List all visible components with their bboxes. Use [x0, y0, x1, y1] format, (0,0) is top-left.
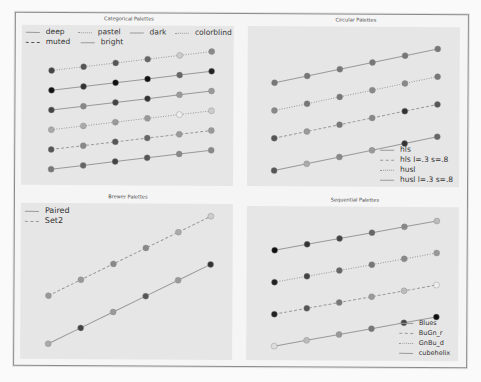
panel-brewer: Brewer Palettes Paired Set2 — [14, 191, 241, 364]
plot-area: Paired Set2 — [20, 203, 233, 360]
data-point — [80, 162, 86, 168]
data-point — [45, 341, 51, 347]
data-point — [45, 293, 51, 299]
data-point — [369, 294, 375, 300]
data-point — [402, 53, 408, 59]
data-point — [112, 119, 118, 125]
legend-label: husl — [400, 165, 416, 175]
legend-label: GnBu_d — [419, 338, 444, 348]
data-point — [80, 143, 86, 149]
data-point — [369, 147, 375, 153]
data-point — [208, 213, 214, 219]
series-line — [275, 220, 437, 251]
series-line — [51, 110, 211, 131]
legend-label: Set2 — [45, 216, 63, 226]
data-point — [143, 293, 149, 299]
data-point — [144, 115, 150, 121]
plot-area: hls hls l=.3 s=.8 husl husl l=.3 s=.8 — [247, 26, 460, 187]
legend-label: cubehelix — [419, 348, 450, 358]
data-point — [271, 311, 277, 317]
data-point — [208, 128, 214, 134]
data-point — [208, 261, 214, 267]
data-point — [271, 343, 277, 349]
plot-area: Blues BuGn_r GnBu_d cubehelix — [246, 206, 459, 361]
data-point — [304, 101, 310, 107]
data-point — [177, 72, 183, 78]
data-point — [304, 73, 310, 79]
legend-label: hls — [400, 145, 411, 155]
data-point — [369, 115, 375, 121]
panel-title: Sequential Palettes — [243, 196, 467, 203]
data-point — [337, 94, 343, 100]
data-point — [369, 230, 375, 236]
data-point — [48, 166, 54, 172]
data-point — [434, 250, 440, 256]
data-point — [209, 68, 215, 74]
data-point — [402, 80, 408, 86]
legend: Paired Set2 — [25, 206, 70, 226]
series-line — [52, 51, 212, 72]
data-point — [368, 326, 374, 332]
legend-label: BuGn_r — [419, 328, 443, 338]
data-point — [145, 56, 151, 62]
data-point — [434, 218, 440, 224]
data-point — [49, 67, 55, 73]
data-point — [435, 46, 441, 52]
legend: deep pastel dark colorblind muted bright — [26, 27, 232, 48]
legend-label: bright — [101, 37, 123, 47]
data-point — [401, 224, 407, 230]
series-line — [274, 284, 436, 315]
data-point — [144, 135, 150, 141]
data-point — [177, 52, 183, 58]
data-point — [144, 96, 150, 102]
panel-title: Categorical Palettes — [16, 15, 242, 22]
data-point — [401, 288, 407, 294]
series-line — [52, 71, 212, 92]
data-point — [175, 229, 181, 235]
data-point — [145, 76, 151, 82]
data-point — [113, 80, 119, 86]
data-point — [209, 88, 215, 94]
data-point — [78, 277, 84, 283]
series-line — [275, 48, 438, 84]
data-point — [176, 92, 182, 98]
data-point — [209, 49, 215, 55]
data-point — [433, 282, 439, 288]
legend-label: hls l=.3 s=.8 — [400, 155, 448, 165]
data-point — [112, 99, 118, 105]
data-point — [48, 107, 54, 113]
data-point — [272, 247, 278, 253]
legend-label: dark — [150, 28, 167, 38]
data-point — [208, 147, 214, 153]
data-point — [435, 74, 441, 80]
data-point — [272, 80, 278, 86]
data-point — [81, 83, 87, 89]
data-point — [80, 123, 86, 129]
series-line — [51, 149, 211, 170]
data-point — [304, 337, 310, 343]
chart-canvas — [20, 203, 233, 360]
data-point — [337, 66, 343, 72]
series-line — [48, 215, 210, 296]
legend: Blues BuGn_r GnBu_d cubehelix — [399, 318, 451, 358]
legend-label: pastel — [98, 27, 121, 37]
data-point — [434, 134, 440, 140]
series-line — [274, 76, 437, 112]
data-point — [401, 256, 407, 262]
data-point — [143, 245, 149, 251]
panel-title: Brewer Palettes — [15, 193, 241, 200]
data-point — [78, 325, 84, 331]
data-point — [271, 168, 277, 174]
data-point — [304, 128, 310, 134]
data-point — [144, 155, 150, 161]
data-point — [208, 108, 214, 114]
panel-categorical: Categorical Palettes deep pastel dark co… — [15, 13, 242, 190]
data-point — [434, 101, 440, 107]
legend: hls hls l=.3 s=.8 husl husl l=.3 s=.8 — [380, 145, 453, 185]
series-line — [51, 130, 211, 151]
data-point — [176, 112, 182, 118]
data-point — [81, 64, 87, 70]
data-point — [110, 261, 116, 267]
legend-label: colorblind — [195, 28, 232, 38]
data-point — [369, 262, 375, 268]
